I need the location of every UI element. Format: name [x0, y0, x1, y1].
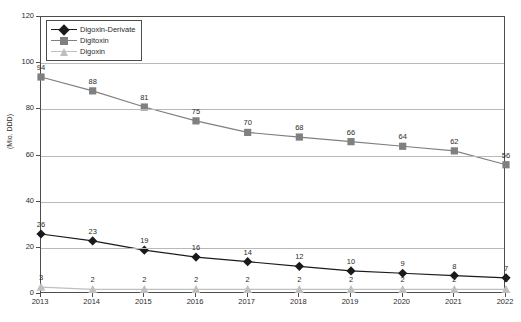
data-point-label: 14	[243, 248, 251, 256]
plot-area: Digoxin-Derivate Digitoxin Digoxin 26231…	[40, 16, 505, 293]
y-tick-label: 40	[0, 197, 34, 205]
series-line	[41, 234, 506, 278]
x-tick-label: 2016	[175, 298, 215, 306]
x-tick-label: 2015	[123, 298, 163, 306]
gridline	[41, 109, 504, 110]
y-tick-label: 20	[0, 243, 34, 251]
series-digitoxin	[37, 73, 509, 168]
data-point-marker	[244, 129, 251, 136]
gridline	[41, 202, 504, 203]
data-point-marker	[399, 143, 406, 150]
data-point-label: 56	[502, 151, 510, 159]
data-point-marker	[502, 161, 509, 168]
data-point-label: 2	[194, 276, 198, 284]
gridline	[41, 156, 504, 157]
data-point-label: 2	[142, 276, 146, 284]
gridline	[41, 248, 504, 249]
data-point-marker	[347, 138, 354, 145]
data-point-label: 10	[347, 257, 355, 265]
y-tick-label: 100	[0, 58, 34, 66]
legend-item-digitoxin[interactable]: Digitoxin	[51, 35, 135, 46]
data-point-label: 70	[243, 119, 251, 127]
data-point-marker	[88, 236, 97, 245]
data-point-label: 12	[295, 253, 303, 261]
data-point-label: 8	[452, 262, 456, 270]
series-digoxin-derivate	[36, 229, 510, 282]
line-chart: (Mio. DDD) 02040608010012020132014201520…	[0, 0, 521, 322]
x-tick-label: 2021	[433, 298, 473, 306]
data-point-marker	[37, 73, 44, 80]
y-tick-label: 0	[0, 289, 34, 297]
legend-key-triangle-icon	[51, 46, 77, 57]
legend-key-square-icon	[51, 35, 77, 46]
data-point-label: 23	[88, 227, 96, 235]
data-point-label: 66	[347, 128, 355, 136]
data-point-label: 19	[140, 237, 148, 245]
data-point-label: 3	[39, 274, 43, 282]
data-point-label: 26	[37, 220, 45, 228]
data-point-marker	[89, 87, 96, 94]
x-tick-label: 2019	[330, 298, 370, 306]
data-point-label: 7	[504, 264, 508, 272]
x-tick-label: 2014	[72, 298, 112, 306]
data-point-label: 88	[88, 77, 96, 85]
data-point-marker	[451, 147, 458, 154]
data-point-label: 9	[401, 260, 405, 268]
legend-label: Digoxin-Derivate	[80, 26, 135, 34]
gridline	[41, 63, 504, 64]
data-point-marker	[295, 262, 304, 271]
data-point-marker	[36, 229, 45, 238]
data-point-label: 2	[401, 276, 405, 284]
data-point-marker	[243, 257, 252, 266]
y-tick-label: 120	[0, 12, 34, 20]
data-point-label: 16	[192, 244, 200, 252]
data-point-marker	[191, 252, 200, 261]
legend-label: Digoxin	[80, 48, 105, 56]
x-tick-label: 2013	[20, 298, 60, 306]
data-point-label: 2	[297, 276, 301, 284]
data-point-label: 2	[91, 276, 95, 284]
data-point-marker	[296, 133, 303, 140]
data-point-label: 2	[349, 276, 353, 284]
data-point-label: 68	[295, 124, 303, 132]
data-point-label: 75	[192, 107, 200, 115]
data-point-label: 2	[452, 276, 456, 284]
x-tick-label: 2020	[382, 298, 422, 306]
legend: Digoxin-Derivate Digitoxin Digoxin	[46, 20, 142, 61]
data-point-label: 64	[398, 133, 406, 141]
legend-key-diamond-icon	[51, 24, 77, 35]
legend-item-digoxin-derivate[interactable]: Digoxin-Derivate	[51, 24, 135, 35]
legend-item-digoxin[interactable]: Digoxin	[51, 46, 135, 57]
data-point-label: 81	[140, 94, 148, 102]
series-digoxin	[37, 283, 511, 293]
x-tick-label: 2022	[485, 298, 521, 306]
data-point-label: 62	[450, 137, 458, 145]
series-line	[41, 77, 506, 165]
series-line	[41, 287, 506, 289]
y-axis-title: (Mio. DDD)	[6, 67, 13, 197]
x-tick-label: 2017	[227, 298, 267, 306]
data-point-marker	[192, 117, 199, 124]
data-point-label: 94	[37, 64, 45, 72]
data-point-label: 2	[246, 276, 250, 284]
data-point-label: 2	[504, 276, 508, 284]
x-tick-label: 2018	[278, 298, 318, 306]
y-tick-mark	[36, 293, 40, 294]
legend-label: Digitoxin	[80, 37, 109, 45]
